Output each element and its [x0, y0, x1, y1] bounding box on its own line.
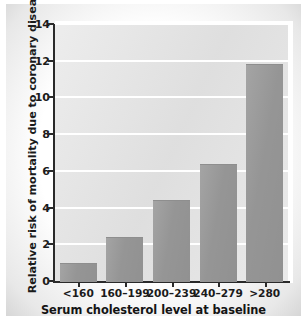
y-tick-label: 12	[30, 54, 50, 67]
y-tick-label: 8	[30, 128, 50, 141]
y-tick-label: 6	[30, 164, 50, 177]
x-tick-mark	[265, 283, 267, 287]
x-axis-tick-labels: <160160–199200–239240–279>280	[55, 287, 288, 302]
y-tick-label: 4	[30, 201, 50, 214]
y-axis-tick-labels: 02468101214	[28, 0, 50, 324]
y-tick-mark	[48, 207, 54, 209]
bar	[153, 200, 190, 282]
y-tick-mark	[48, 243, 54, 245]
y-tick-mark	[48, 23, 54, 25]
bar	[200, 164, 237, 282]
x-tick-mark	[172, 283, 174, 287]
y-tick-label: 10	[30, 91, 50, 104]
x-tick-mark	[125, 283, 127, 287]
chart-figure: Relative risk of mortality due to corona…	[0, 0, 307, 324]
x-tick-label: <160	[63, 287, 94, 299]
y-tick-mark	[48, 60, 54, 62]
y-tick-mark	[48, 280, 54, 282]
gridline	[55, 60, 288, 62]
x-axis-title: Serum cholesterol level at baseline	[0, 303, 307, 317]
bar	[246, 64, 283, 282]
x-tick-label: 160–199	[100, 287, 150, 299]
y-tick-label: 2	[30, 238, 50, 251]
y-tick-mark	[48, 170, 54, 172]
y-tick-label: 14	[30, 18, 50, 31]
x-tick-label: 200–239	[147, 287, 197, 299]
y-tick-mark	[48, 133, 54, 135]
x-tick-mark	[78, 283, 80, 287]
y-tick-label: 0	[30, 275, 50, 288]
bar	[60, 263, 97, 282]
x-tick-label: >280	[249, 287, 280, 299]
y-tick-mark	[48, 96, 54, 98]
x-tick-mark	[218, 283, 220, 287]
bar	[106, 237, 143, 282]
x-tick-label: 240–279	[193, 287, 243, 299]
gridline	[55, 23, 288, 25]
